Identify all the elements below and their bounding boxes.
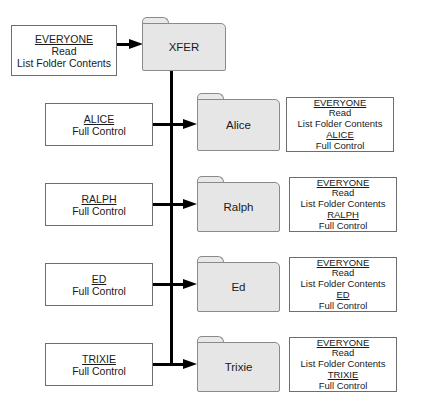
- user-permission: Full Control: [72, 125, 126, 137]
- folder-label: Ralph: [223, 201, 253, 213]
- user-permission: Full Control: [72, 285, 126, 297]
- branch-connector: [153, 363, 184, 366]
- user-name: ED: [92, 273, 107, 285]
- effective-acl-box: EVERYONE Read List Folder Contents TRIXI…: [289, 337, 397, 392]
- effective-acl-box: EVERYONE Read List Folder Contents RALPH…: [289, 177, 397, 232]
- user-name: ALICE: [84, 113, 114, 125]
- trunk-connector: [170, 71, 173, 366]
- user-name: RALPH: [81, 193, 116, 205]
- arrowhead-icon: [129, 39, 143, 49]
- root-acl-box: EVERYONE Read List Folder Contents: [11, 25, 117, 76]
- user-permission: Full Control: [72, 205, 126, 217]
- folder-icon: Ralph: [197, 182, 280, 232]
- folder-label: Ed: [231, 281, 245, 293]
- branch-connector: [153, 203, 184, 206]
- user-acl-box: TRIXIE Full Control: [45, 343, 153, 386]
- folder-label: XFER: [169, 41, 200, 53]
- root-acl-permission: List Folder Contents: [17, 57, 111, 69]
- effective-user-permission: Full Control: [316, 141, 365, 152]
- arrowhead-icon: [183, 199, 197, 209]
- branch-connector: [153, 123, 184, 126]
- folder-ralph: Ralph: [197, 176, 280, 232]
- root-acl-principal: EVERYONE: [35, 33, 93, 45]
- arrowhead-icon: [183, 279, 197, 289]
- folder-icon: Alice: [197, 99, 280, 151]
- effective-user-permission: Full Control: [319, 301, 368, 312]
- root-acl-permission: Read: [51, 45, 76, 57]
- effective-acl-box: EVERYONE Read List Folder Contents ED Fu…: [289, 257, 397, 312]
- folder-icon: Trixie: [197, 342, 280, 392]
- folder-label: Alice: [226, 119, 251, 131]
- branch-connector: [153, 283, 184, 286]
- folder-xfer: XFER: [142, 17, 226, 71]
- effective-user-permission: Full Control: [319, 221, 368, 232]
- folder-ed: Ed: [197, 256, 280, 312]
- effective-acl-box: EVERYONE Read List Folder Contents ALICE…: [286, 97, 394, 152]
- folder-icon: Ed: [197, 262, 280, 312]
- user-name: TRIXIE: [82, 353, 116, 365]
- folder-trixie: Trixie: [197, 336, 280, 392]
- arrowhead-icon: [183, 359, 197, 369]
- user-permission: Full Control: [72, 365, 126, 377]
- folder-icon: XFER: [142, 23, 226, 71]
- user-acl-box: ED Full Control: [45, 263, 153, 306]
- folder-label: Trixie: [225, 361, 253, 373]
- user-acl-box: RALPH Full Control: [45, 183, 153, 226]
- effective-user-permission: Full Control: [319, 381, 368, 392]
- user-acl-box: ALICE Full Control: [45, 103, 153, 146]
- folder-alice: Alice: [197, 93, 280, 151]
- arrowhead-icon: [183, 119, 197, 129]
